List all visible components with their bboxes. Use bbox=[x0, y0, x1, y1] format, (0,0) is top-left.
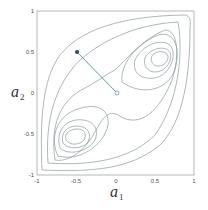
svg-text:1: 1 bbox=[192, 178, 196, 184]
svg-text:2: 2 bbox=[20, 92, 25, 102]
svg-text:0: 0 bbox=[31, 90, 35, 96]
svg-text:1: 1 bbox=[119, 192, 124, 202]
end-marker bbox=[115, 91, 119, 95]
svg-text:-0.5: -0.5 bbox=[71, 178, 82, 184]
svg-text:a: a bbox=[110, 183, 118, 200]
svg-text:a: a bbox=[11, 83, 19, 100]
svg-text:-1: -1 bbox=[34, 178, 40, 184]
y-axis-label: a 2 bbox=[11, 83, 25, 102]
x-axis-label: a 1 bbox=[110, 183, 124, 202]
y-axis-ticks: 1 0.5 0 -0.5 -1 bbox=[24, 8, 35, 178]
svg-text:0.5: 0.5 bbox=[151, 178, 160, 184]
svg-text:0.5: 0.5 bbox=[26, 49, 35, 55]
svg-text:1: 1 bbox=[31, 8, 35, 14]
start-marker bbox=[75, 50, 79, 54]
svg-text:-0.5: -0.5 bbox=[24, 131, 35, 137]
contour-chart: 1 0.5 0 -0.5 -1 -1 -0.5 0 0.5 1 a 1 a 2 bbox=[0, 0, 208, 210]
